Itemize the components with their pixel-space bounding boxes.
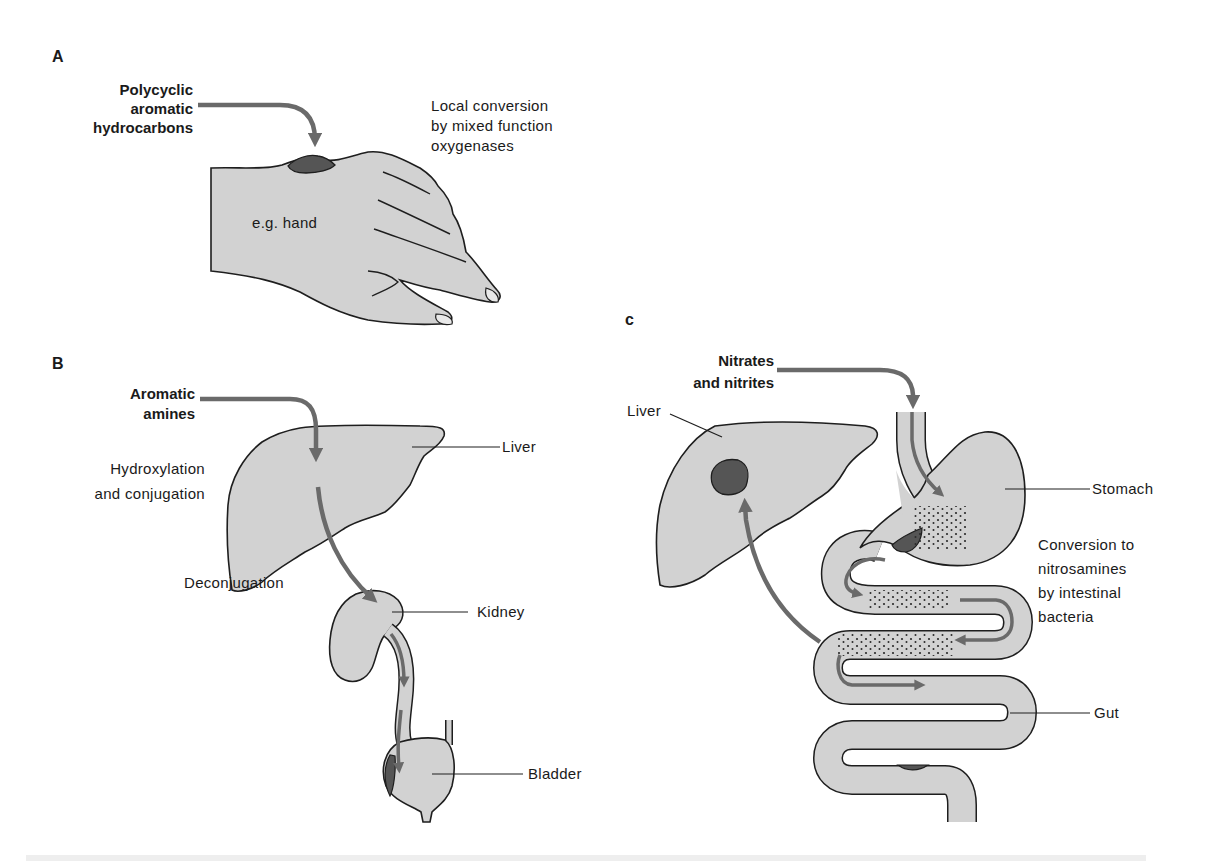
bacteria-dots-gut-2 (838, 634, 953, 656)
hand-illustration (211, 152, 500, 325)
organ-label-liver-b: Liver (502, 437, 536, 456)
arrow-nitrates-to-esophagus (777, 370, 913, 402)
liver-b-illustration (227, 425, 444, 591)
gut-illustration (828, 412, 1025, 822)
organ-label-hand: e.g. hand (252, 213, 317, 232)
organ-label-liver-c: Liver (627, 401, 661, 420)
agent-label-nitrates-nitrites: Nitrates and nitrites (640, 350, 774, 394)
process-label-deconjugation: Deconjugation (184, 573, 284, 592)
organ-label-kidney: Kidney (477, 602, 525, 621)
page-edge-strip (26, 855, 1146, 861)
bladder-illustration (383, 738, 454, 822)
organ-label-bladder: Bladder (528, 764, 582, 783)
organ-label-stomach: Stomach (1092, 479, 1153, 498)
panel-label-a: A (52, 47, 64, 66)
panel-label-b: B (52, 354, 64, 373)
arrow-hydrocarbons-to-skin (198, 105, 315, 140)
carcinogen-metabolism-figure: A Polycyclic aromatic hydrocarbons Local… (0, 0, 1214, 862)
agent-label-polycyclic-hydrocarbons: Polycyclic aromatic hydrocarbons (85, 80, 193, 137)
process-label-nitrosamine-conversion: Conversion to nitrosamines by intestinal… (1038, 533, 1134, 629)
organ-label-gut: Gut (1094, 703, 1119, 722)
process-label-hydroxylation: Hydroxylation and conjugation (40, 456, 205, 506)
bacteria-dots-stomach (912, 506, 966, 550)
agent-label-aromatic-amines: Aromatic amines (95, 384, 195, 424)
bacteria-dots-gut-1 (868, 590, 950, 610)
liver-tumor-lesion (711, 460, 748, 495)
process-label-local-conversion: Local conversion by mixed function oxyge… (431, 96, 553, 156)
panel-label-c: c (625, 310, 634, 329)
